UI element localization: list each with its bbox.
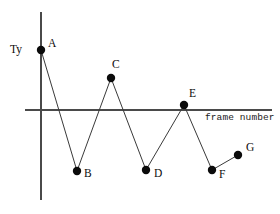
data-point-e — [180, 101, 188, 109]
data-point-g — [234, 151, 242, 159]
data-point-label-a: A — [48, 38, 56, 50]
data-point-label-e: E — [189, 88, 196, 100]
data-point-label-f: F — [219, 169, 225, 181]
data-point-a — [37, 46, 45, 54]
data-point-label-d: D — [154, 168, 162, 180]
plot-figure: ABCDEFG Ty frame number — [0, 0, 280, 214]
y-axis-label: Ty — [10, 44, 22, 56]
data-point-b — [73, 167, 81, 175]
data-point-f — [208, 166, 216, 174]
data-point-label-c: C — [112, 59, 120, 71]
x-axis-label: frame number — [205, 113, 275, 123]
plot-canvas — [0, 0, 280, 214]
data-point-d — [142, 166, 150, 174]
data-point-c — [107, 74, 115, 82]
data-point-label-b: B — [84, 168, 92, 180]
data-point-label-g: G — [246, 142, 254, 154]
